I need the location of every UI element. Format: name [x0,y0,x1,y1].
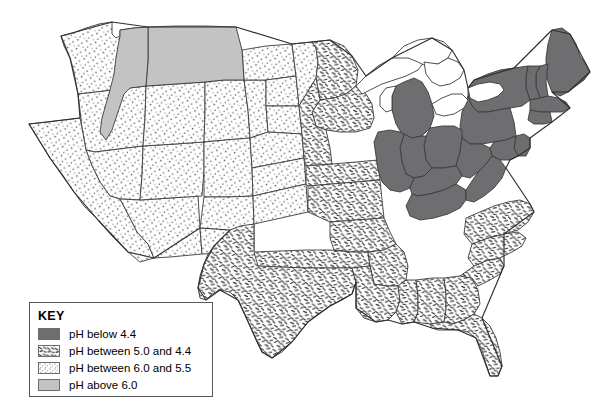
legend-label-ph-6-0-to-5-5: pH between 6.0 and 5.5 [69,362,191,375]
legend-swatch-solid-light [38,379,60,391]
acid-rain-ph-map: KEY pH below 4.4 pH between 5.0 and 4.4 … [0,0,612,420]
legend-item-ph-above-6-0: pH above 6.0 [38,377,212,393]
map-legend: KEY pH below 4.4 pH between 5.0 and 4.4 … [29,302,213,397]
legend-item-ph-5-0-to-4-4: pH between 5.0 and 4.4 [38,343,212,359]
legend-swatch-solid-dark [38,328,60,340]
legend-swatch-dash [38,345,60,357]
legend-item-ph-6-0-to-5-5: pH between 6.0 and 5.5 [38,360,212,376]
legend-title: KEY [38,309,212,323]
legend-label-ph-above-6-0: pH above 6.0 [69,379,137,392]
legend-item-ph-below-4-4: pH below 4.4 [38,326,212,342]
legend-label-ph-5-0-to-4-4: pH between 5.0 and 4.4 [69,345,191,358]
legend-swatch-stipple [38,362,60,374]
legend-label-ph-below-4-4: pH below 4.4 [69,328,136,341]
